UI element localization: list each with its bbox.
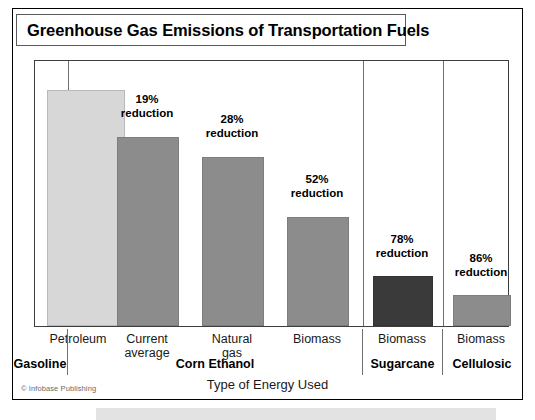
- category-label-line1: Biomass: [285, 332, 349, 346]
- plot-area: [34, 60, 509, 327]
- category-label-line1: Biomass: [370, 332, 434, 346]
- category-label-line1: Current: [115, 332, 179, 346]
- bar-value-pct: 78%: [371, 233, 433, 247]
- publisher-credit: © Infobase Publishing: [21, 384, 96, 393]
- bar-value-word: reduction: [201, 127, 263, 141]
- group-label-corn-ethanol: Corn Ethanol: [68, 357, 362, 371]
- category-label-corn-current-average: Current average: [115, 332, 179, 360]
- group-label-sugarcane: Sugarcane: [363, 357, 442, 371]
- bar-sugarcane-biomass: [373, 276, 433, 326]
- plot-divider-sugarcane-cellulosic: [443, 61, 444, 326]
- chart-title-box: Greenhouse Gas Emissions of Transportati…: [16, 14, 406, 46]
- figure-container: Greenhouse Gas Emissions of Transportati…: [12, 8, 523, 400]
- group-label-gasoline: Gasoline: [13, 357, 67, 371]
- page-bottom-strip: [96, 408, 496, 420]
- bar-value-word: reduction: [371, 247, 433, 261]
- category-label-petroleum: Petroleum: [37, 332, 119, 346]
- bar-cellulosic-biomass: [453, 295, 511, 326]
- bar-value-label-cellulosic-biomass: 86% reduction: [451, 252, 511, 279]
- category-label-line1: Biomass: [450, 332, 512, 346]
- bar-value-pct: 28%: [201, 113, 263, 127]
- category-label-sugarcane-biomass: Biomass: [370, 332, 434, 346]
- page-title: Greenhouse Gas Emissions of Transportati…: [27, 21, 429, 40]
- plot-divider-corn-sugarcane: [363, 61, 364, 326]
- category-label-corn-natural-gas: Natural gas: [200, 332, 264, 360]
- bar-corn-natural-gas: [202, 157, 264, 326]
- bar-value-pct: 52%: [286, 173, 348, 187]
- bar-value-label-corn-current-average: 19% reduction: [116, 93, 178, 120]
- category-label-cellulosic-biomass: Biomass: [450, 332, 512, 346]
- bar-value-label-sugarcane-biomass: 78% reduction: [371, 233, 433, 260]
- bar-petroleum: [47, 90, 125, 326]
- bar-value-word: reduction: [286, 187, 348, 201]
- bar-corn-biomass: [287, 217, 349, 326]
- bar-value-label-corn-biomass: 52% reduction: [286, 173, 348, 200]
- bar-value-pct: 19%: [116, 93, 178, 107]
- bar-value-label-corn-natural-gas: 28% reduction: [201, 113, 263, 140]
- bar-value-pct: 86%: [451, 252, 511, 266]
- bar-corn-current-average: [117, 137, 179, 326]
- group-label-cellulosic: Cellulosic: [443, 357, 521, 371]
- category-label-line1: Natural: [200, 332, 264, 346]
- category-label-line1: Petroleum: [37, 332, 119, 346]
- bar-value-word: reduction: [116, 107, 178, 121]
- bar-value-word: reduction: [451, 266, 511, 280]
- category-label-corn-biomass: Biomass: [285, 332, 349, 346]
